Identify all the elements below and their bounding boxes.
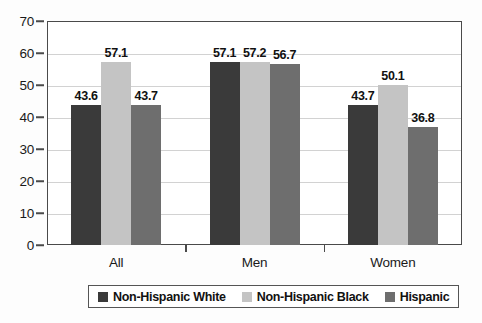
y-tick-mark (36, 20, 44, 22)
bar-value-label: 43.7 (135, 89, 158, 103)
bar (378, 85, 408, 245)
bar-group-men: 57.157.256.7 (210, 21, 300, 245)
bar-value-label: 36.8 (411, 111, 434, 125)
y-tick-label: 20 (19, 174, 34, 189)
y-tick-label: 60 (19, 46, 34, 61)
x-category-label: Men (242, 255, 268, 270)
y-tick-label: 0 (27, 238, 34, 253)
chart-legend: Non-Hispanic WhiteNon-Hispanic BlackHisp… (88, 285, 459, 308)
legend-item[interactable]: Hispanic (385, 290, 450, 304)
bar-value-label: 43.6 (75, 89, 98, 103)
bar (131, 105, 161, 245)
bar (408, 127, 438, 245)
x-tick-mark (324, 245, 326, 252)
bar-value-label: 50.1 (381, 69, 404, 83)
bar-value-label: 56.7 (273, 48, 296, 62)
bar-chart: 010203040506070 43.657.143.757.157.256.7… (0, 0, 482, 323)
legend-swatch-icon (98, 292, 108, 302)
bar (270, 64, 300, 245)
bar (71, 105, 101, 245)
y-tick-mark (36, 244, 44, 246)
y-tick-label: 70 (19, 14, 34, 29)
bar (210, 62, 240, 245)
bars-layer: 43.657.143.757.157.256.743.750.136.8 (47, 21, 462, 245)
bar-value-label: 57.2 (243, 46, 266, 60)
y-tick-label: 10 (19, 206, 34, 221)
legend-item[interactable]: Non-Hispanic Black (242, 290, 369, 304)
y-tick-mark (36, 52, 44, 54)
bar (348, 105, 378, 245)
legend-label: Non-Hispanic Black (257, 290, 369, 304)
bar (240, 62, 270, 245)
y-tick-mark (36, 84, 44, 86)
bar-value-label: 57.1 (213, 46, 236, 60)
bar-value-label: 57.1 (105, 46, 128, 60)
legend-swatch-icon (385, 292, 395, 302)
y-tick-mark (36, 148, 44, 150)
legend-item[interactable]: Non-Hispanic White (98, 290, 226, 304)
y-tick-label: 40 (19, 110, 34, 125)
bar-value-label: 43.7 (351, 89, 374, 103)
x-category-label: Women (370, 255, 415, 270)
legend-swatch-icon (242, 292, 252, 302)
y-tick-mark (36, 212, 44, 214)
y-axis: 010203040506070 (0, 0, 47, 246)
x-tick-mark (185, 245, 187, 252)
bar-group-all: 43.657.143.7 (71, 21, 161, 245)
bar-group-women: 43.750.136.8 (348, 21, 438, 245)
legend-label: Hispanic (400, 290, 450, 304)
legend-label: Non-Hispanic White (113, 290, 226, 304)
bar (101, 62, 131, 245)
y-tick-mark (36, 116, 44, 118)
y-tick-label: 50 (19, 78, 34, 93)
y-tick-label: 30 (19, 142, 34, 157)
x-axis: AllMenWomen (47, 245, 462, 275)
x-category-label: All (109, 255, 123, 270)
y-tick-mark (36, 180, 44, 182)
